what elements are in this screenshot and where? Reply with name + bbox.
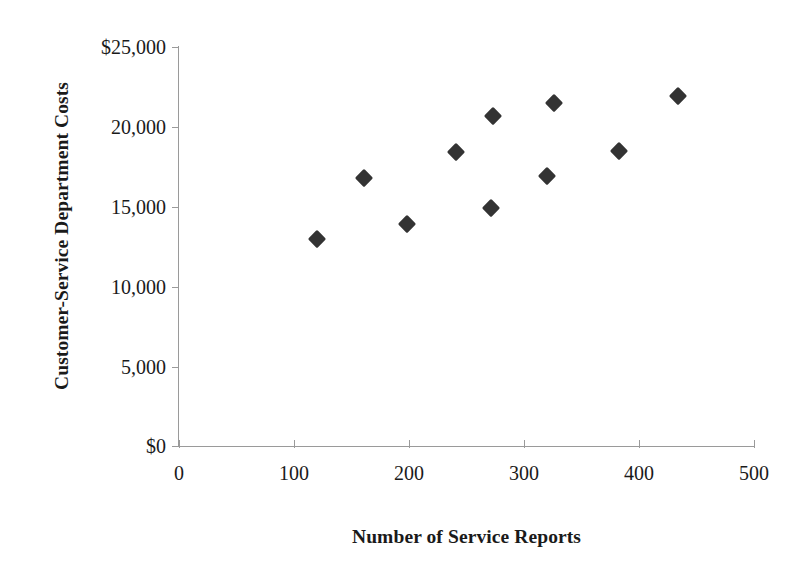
- y-tick-label-0: $0: [66, 436, 166, 456]
- data-point-1: [355, 169, 373, 187]
- y-tick-label-15000: 15,000: [66, 197, 166, 217]
- x-axis-line: [178, 446, 755, 447]
- x-tick-500: [754, 440, 755, 448]
- x-tick-label-500: 500: [714, 462, 794, 484]
- y-tick-15000: [172, 207, 179, 208]
- data-point-8: [610, 142, 628, 160]
- x-tick-label-0: 0: [139, 462, 219, 484]
- data-point-6: [538, 167, 556, 185]
- data-point-3: [447, 143, 465, 161]
- data-point-4: [481, 199, 499, 217]
- y-tick-0: [172, 446, 179, 447]
- x-tick-label-100: 100: [254, 462, 334, 484]
- x-tick-label-300: 300: [484, 462, 564, 484]
- y-tick-5000: [172, 367, 179, 368]
- data-point-5: [484, 106, 502, 124]
- y-tick-label-20000: 20,000: [66, 117, 166, 137]
- data-point-0: [308, 229, 326, 247]
- y-tick-label-10000: 10,000: [66, 277, 166, 297]
- y-tick-label-25000: $25,000: [66, 37, 166, 57]
- data-point-7: [545, 94, 563, 112]
- data-point-2: [397, 215, 415, 233]
- x-tick-label-200: 200: [369, 462, 449, 484]
- x-axis-title: Number of Service Reports: [179, 522, 754, 552]
- y-tick-20000: [172, 127, 179, 128]
- x-tick-label-400: 400: [599, 462, 679, 484]
- scatter-chart: Customer-Service Department Costs $25,00…: [0, 0, 806, 583]
- data-point-9: [669, 87, 687, 105]
- y-tick-label-5000: 5,000: [66, 357, 166, 377]
- y-axis-title: Customer-Service Department Costs: [42, 26, 82, 446]
- y-tick-10000: [172, 287, 179, 288]
- plot-area: [179, 47, 754, 446]
- y-tick-25000: [172, 47, 179, 48]
